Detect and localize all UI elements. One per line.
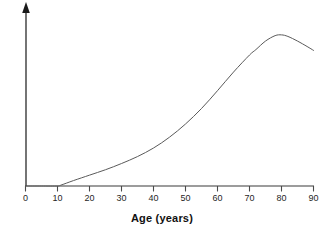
x-tick-label: 20 (78, 193, 102, 204)
x-tick-label: 30 (110, 193, 134, 204)
x-tick-label: 0 (14, 193, 38, 204)
x-axis-title: Age (years) (0, 212, 324, 224)
x-tick-label: 10 (46, 193, 70, 204)
x-tick-label: 40 (142, 193, 166, 204)
y-axis (22, 2, 30, 186)
y-axis-arrow-icon (22, 2, 30, 13)
x-axis-ticks (26, 186, 314, 192)
data-series-line (26, 35, 314, 186)
chart-container: 0102030405060708090 Age (years) (0, 0, 324, 235)
x-axis (25, 186, 314, 192)
x-tick-label: 60 (206, 193, 230, 204)
x-tick-label: 80 (270, 193, 294, 204)
x-tick-label: 50 (174, 193, 198, 204)
x-tick-label: 70 (238, 193, 262, 204)
x-tick-label: 90 (302, 193, 324, 204)
